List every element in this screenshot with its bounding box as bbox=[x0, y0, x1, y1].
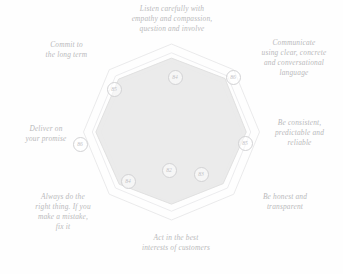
value-badge-listen: 84 bbox=[168, 70, 183, 85]
value-badge-deliver: 86 bbox=[73, 137, 88, 152]
radar-chart: Listen carefully with empathy and compas… bbox=[0, 0, 343, 274]
value-badge-communicate: 86 bbox=[226, 70, 241, 85]
value-badge-honest: 83 bbox=[194, 167, 209, 182]
axis-label-long-term: Commit to the long term bbox=[24, 40, 109, 60]
value-badge-customers: 82 bbox=[162, 163, 177, 178]
value-badge-long-term: 85 bbox=[107, 82, 122, 97]
axis-label-listen: Listen carefully with empathy and compas… bbox=[108, 4, 236, 34]
value-badge-consistent: 85 bbox=[238, 136, 253, 151]
axis-label-customers: Act in the best interests of customers bbox=[118, 233, 234, 253]
axis-label-communicate: Communicate using clear, concrete and co… bbox=[247, 38, 341, 77]
axis-label-consistent: Be consistent, predictable and reliable bbox=[258, 118, 341, 148]
axis-label-honest: Be honest and transparent bbox=[239, 192, 331, 212]
value-badge-right-thing: 84 bbox=[121, 174, 136, 189]
axis-label-right-thing: Always do the right thing. If you make a… bbox=[14, 192, 112, 231]
